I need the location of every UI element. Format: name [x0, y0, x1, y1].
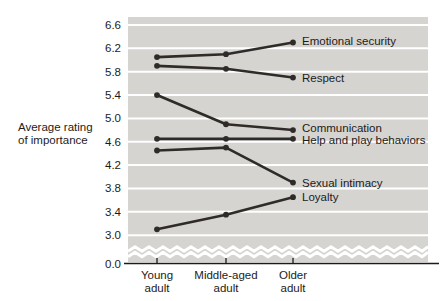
y-tick-label: 4.6	[105, 136, 121, 148]
data-point-sexual-intimacy	[290, 180, 296, 186]
series-label-respect: Respect	[302, 72, 345, 84]
data-point-respect	[290, 75, 296, 81]
series-label-loyalty: Loyalty	[302, 191, 339, 203]
data-point-respect	[223, 66, 229, 72]
relationship-importance-chart-figure: Average rating of importance 6.66.25.85.…	[0, 0, 446, 301]
data-point-sexual-intimacy	[223, 145, 229, 151]
y-tick-label: 3.4	[105, 206, 122, 218]
y-tick-label: 6.2	[105, 42, 121, 54]
x-category-label: adult	[145, 282, 171, 294]
data-point-help-and-play-behaviors	[154, 136, 160, 142]
y-tick-label: 4.2	[105, 159, 121, 171]
y-tick-label: 5.8	[105, 66, 121, 78]
series-label-communication: Communication	[302, 122, 382, 134]
line-chart-canvas: 6.66.25.85.45.04.64.23.83.43.00.0Emotion…	[0, 0, 446, 301]
x-category-label: adult	[214, 282, 240, 294]
y-tick-label: 5.0	[105, 112, 121, 124]
data-point-communication	[223, 121, 229, 127]
series-label-sexual-intimacy: Sexual intimacy	[302, 177, 383, 189]
data-point-help-and-play-behaviors	[290, 136, 296, 142]
y-tick-label: 3.0	[105, 229, 121, 241]
y-tick-label: 6.6	[105, 19, 121, 31]
data-point-loyalty	[290, 194, 296, 200]
x-category-label: Older	[279, 269, 307, 281]
x-category-label: adult	[281, 282, 307, 294]
data-point-emotional-security	[290, 40, 296, 46]
series-label-emotional-security: Emotional security	[302, 35, 396, 47]
y-tick-label: 3.8	[105, 182, 121, 194]
data-point-sexual-intimacy	[154, 148, 160, 154]
data-point-loyalty	[223, 212, 229, 218]
data-point-loyalty	[154, 226, 160, 232]
x-category-label: Middle-aged	[194, 269, 257, 281]
data-point-help-and-play-behaviors	[223, 136, 229, 142]
data-point-respect	[154, 63, 160, 69]
y-tick-label-break: 0.0	[105, 258, 121, 270]
series-label-help-and-play-behaviors: Help and play behaviors	[302, 134, 426, 146]
data-point-communication	[154, 92, 160, 98]
data-point-emotional-security	[223, 51, 229, 57]
data-point-emotional-security	[154, 54, 160, 60]
y-tick-label: 5.4	[105, 89, 122, 101]
data-point-communication	[290, 127, 296, 133]
x-category-label: Young	[141, 269, 173, 281]
